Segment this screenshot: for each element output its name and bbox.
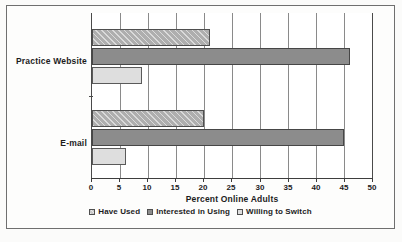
x-tick-label-40: 40 — [306, 183, 326, 192]
gridline-45 — [344, 13, 345, 178]
bar-email-interested-in-using — [92, 129, 344, 146]
legend-swatch-icon-willing-to-switch — [237, 209, 243, 215]
x-tick-label-5: 5 — [109, 183, 129, 192]
chart-figure: Practice Website E-mail 0 5 10 — [0, 0, 402, 242]
y-axis-tick-stub — [89, 96, 93, 97]
bar-email-have-used — [92, 110, 204, 127]
x-tick-25 — [231, 178, 232, 182]
x-tick-label-10: 10 — [137, 183, 157, 192]
legend-swatch-icon-have-used — [89, 209, 95, 215]
legend-swatch-icon-interested-in-using — [147, 209, 153, 215]
legend-label-interested-in-using: Interested in Using — [156, 207, 230, 216]
legend-item-interested-in-using: Interested in Using — [147, 207, 230, 216]
chart-legend: Have Used Interested in Using Willing to… — [6, 207, 395, 216]
x-tick-20 — [203, 178, 204, 182]
legend-label-willing-to-switch: Willing to Switch — [246, 207, 312, 216]
x-tick-15 — [175, 178, 176, 182]
bar-practice-website-interested-in-using — [92, 48, 350, 65]
x-tick-40 — [316, 178, 317, 182]
bar-practice-website-willing-to-switch — [92, 67, 142, 84]
legend-item-willing-to-switch: Willing to Switch — [237, 207, 312, 216]
x-tick-label-0: 0 — [81, 183, 101, 192]
x-tick-label-50: 50 — [362, 183, 382, 192]
x-tick-label-20: 20 — [193, 183, 213, 192]
x-tick-label-15: 15 — [165, 183, 185, 192]
x-tick-label-30: 30 — [250, 183, 270, 192]
bar-practice-website-have-used — [92, 29, 210, 46]
gridline-35 — [288, 13, 289, 178]
legend-item-have-used: Have Used — [89, 207, 140, 216]
x-tick-35 — [288, 178, 289, 182]
x-tick-50 — [372, 178, 373, 182]
category-label-email: E-mail — [60, 138, 87, 148]
gridline-25 — [232, 13, 233, 178]
x-tick-label-45: 45 — [334, 183, 354, 192]
gridline-30 — [260, 13, 261, 178]
x-tick-45 — [344, 178, 345, 182]
x-tick-30 — [260, 178, 261, 182]
legend-label-have-used: Have Used — [98, 207, 140, 216]
x-axis-title: Percent Online Adults — [91, 194, 373, 204]
plot-area — [91, 13, 373, 178]
gridline-40 — [316, 13, 317, 178]
x-tick-5 — [119, 178, 120, 182]
category-label-practice-website: Practice Website — [16, 56, 87, 66]
x-tick-label-35: 35 — [278, 183, 298, 192]
x-tick-10 — [147, 178, 148, 182]
x-tick-0 — [91, 178, 92, 182]
x-axis-line — [91, 178, 373, 179]
y-axis-category-labels: Practice Website E-mail — [0, 13, 87, 178]
bar-email-willing-to-switch — [92, 148, 126, 165]
x-tick-label-25: 25 — [221, 183, 241, 192]
